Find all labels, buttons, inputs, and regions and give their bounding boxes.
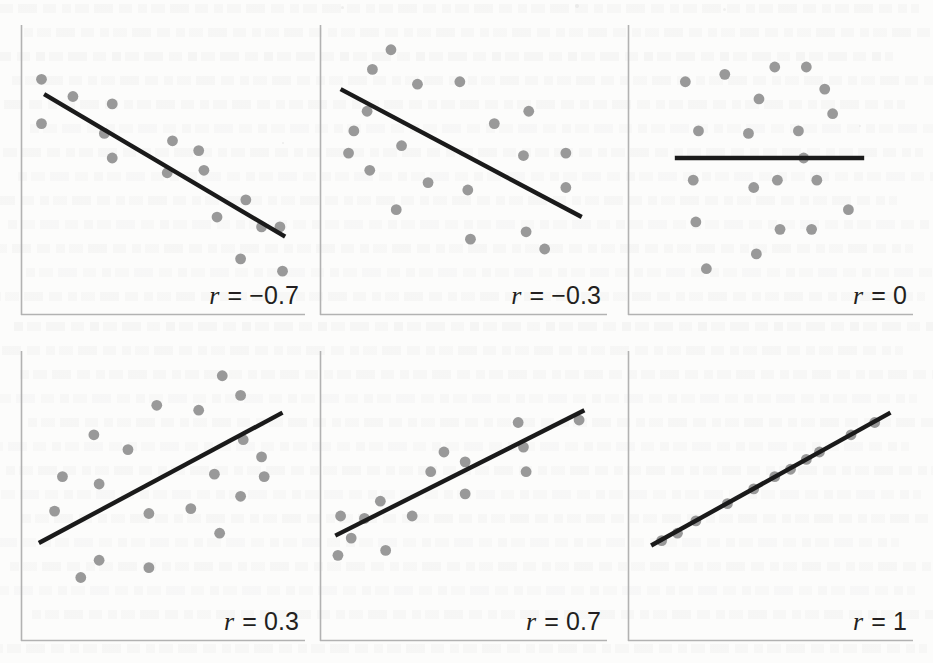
data-point [793,126,804,137]
data-point [460,488,471,499]
data-point [185,503,196,514]
scatterplot-grid: r = −0.7 r = −0.3 r = 0 r = 0.3 r = 0.7 … [0,0,933,663]
panel-plot-area [21,351,305,641]
panel-r-1: r = 1 [628,351,913,641]
data-point [462,185,473,196]
data-point [209,469,220,480]
data-point [489,118,500,129]
correlation-symbol: r [511,281,522,310]
data-point [57,471,68,482]
data-point [460,456,471,467]
data-point [518,150,529,161]
data-point [693,126,704,137]
trend-line [335,410,584,535]
data-point [240,194,251,205]
correlation-label: r = 1 [853,607,907,637]
data-point [343,148,354,159]
scatter-dots [333,415,585,561]
correlation-label: r = 0.3 [224,607,299,637]
correlation-label: r = 0.7 [526,607,601,637]
panel-plot-area [21,25,305,315]
correlation-label: r = 0 [853,281,907,311]
trend-line [341,89,582,217]
data-point [425,466,436,477]
data-point [259,471,270,482]
data-point [539,244,550,255]
data-point [819,84,830,95]
data-point [364,165,375,176]
data-point [88,429,99,440]
panel-plot-area [320,351,607,641]
correlation-value: = −0.3 [522,281,601,309]
panel-r-minus-0-3: r = −0.3 [320,25,607,315]
data-point [199,165,210,176]
trend-line [44,94,285,237]
data-point [235,491,246,502]
data-point [36,74,47,85]
data-point [801,62,812,73]
correlation-value: = 0 [864,281,907,309]
data-point [214,528,225,539]
data-point [36,118,47,129]
data-point [217,370,228,381]
correlation-symbol: r [853,281,864,310]
correlation-symbol: r [853,607,864,636]
data-point [521,466,532,477]
scatter-dots [680,62,854,275]
correlation-symbol: r [526,607,537,636]
data-point [375,496,386,507]
data-point [348,126,359,137]
data-point [701,263,712,274]
scatter-dots [36,74,288,277]
data-point [748,182,759,193]
data-point [193,145,204,156]
correlation-value: = 1 [864,607,907,635]
data-point [454,76,465,87]
data-point [346,533,357,544]
correlation-symbol: r [209,281,220,310]
data-point [107,153,118,164]
data-point [688,175,699,186]
data-point [333,550,344,561]
data-point [386,44,397,55]
figure-canvas: r = −0.7 r = −0.3 r = 0 r = 0.3 r = 0.7 … [0,0,933,663]
panel-r-0-7: r = 0.7 [320,351,607,641]
data-point [94,479,105,490]
data-point [423,177,434,188]
trend-line [651,413,890,546]
data-point [407,511,418,522]
data-point [743,128,754,139]
data-point [560,148,571,159]
data-point [690,217,701,228]
data-point [235,253,246,264]
data-point [513,417,524,428]
data-point [75,572,86,583]
data-point [772,175,783,186]
data-point [167,135,178,146]
panel-plot-area [628,351,913,641]
data-point [439,447,450,458]
panel-r-0-3: r = 0.3 [21,351,305,641]
correlation-value: = 0.7 [537,607,601,635]
trend-line [39,413,283,543]
panel-plot-area [320,25,607,315]
data-point [144,508,155,519]
data-point [412,79,423,90]
data-point [123,444,134,455]
data-point [94,555,105,566]
data-point [465,234,476,245]
data-point [775,224,786,235]
correlation-value: = 0.3 [235,607,299,635]
correlation-symbol: r [224,607,235,636]
data-point [193,405,204,416]
data-point [212,212,223,223]
data-point [754,94,765,105]
correlation-label: r = −0.3 [511,281,601,311]
data-point [769,62,780,73]
data-point [107,98,118,109]
data-point [235,390,246,401]
data-point [335,511,346,522]
data-point [367,64,378,75]
data-point [144,562,155,573]
data-point [680,76,691,87]
